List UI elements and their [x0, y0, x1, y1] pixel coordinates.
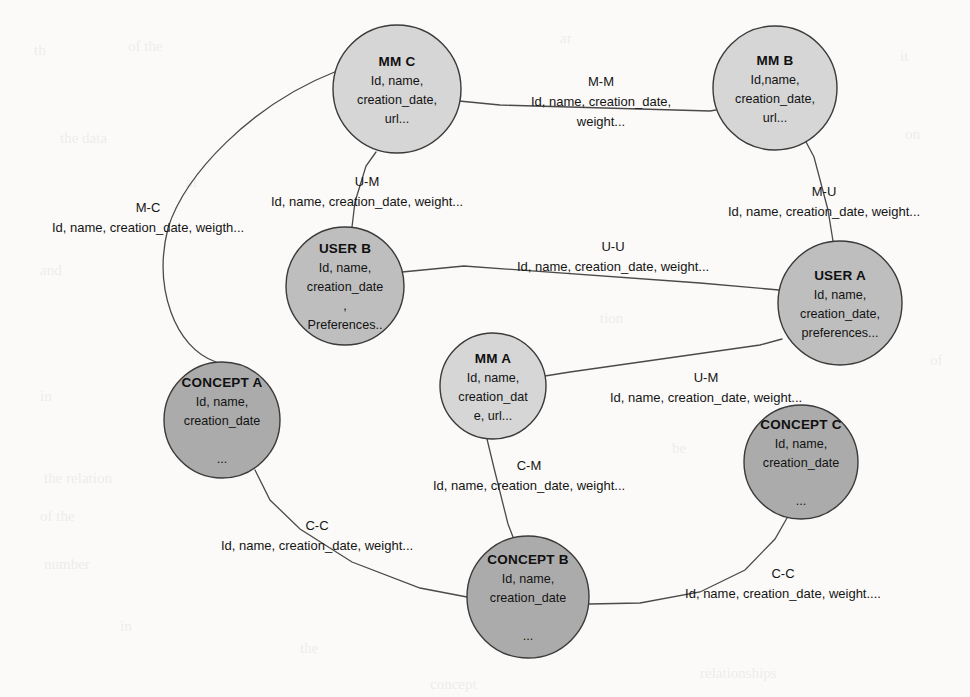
node-attribute-line: creation_date, [800, 307, 880, 321]
node-mm-c[interactable]: MM CId, name,creation_date,url... [333, 25, 461, 153]
node-concept-a[interactable]: CONCEPT AId, name,creation_date... [164, 362, 280, 478]
node-user-a[interactable]: USER AId, name,creation_date,preferences… [778, 241, 902, 365]
entity-relationship-diagram: M-MId, name, creation_date,weight...U-MI… [0, 0, 970, 697]
edge-attributes: Id, name, creation_date, weight... [728, 204, 920, 219]
node-mm-b[interactable]: MM BId,name,creation_date,url... [713, 26, 837, 150]
node-attribute-line: Id, name, [467, 371, 520, 385]
node-title-mm-a: MM A [475, 351, 511, 366]
edge-label-u-u-4: U-UId, name, creation_date, weight... [517, 239, 709, 274]
node-title-mm-b: MM B [757, 53, 794, 68]
edge-relationship-type: C-M [517, 458, 542, 473]
edge-attributes-cont: weight... [576, 114, 625, 129]
node-concept-b[interactable]: CONCEPT BId, name,creation_date... [467, 536, 589, 658]
node-attribute-line: e, url... [474, 409, 513, 423]
node-attribute-line: creation_date [490, 591, 566, 605]
node-attribute-line: Id, name, [196, 395, 249, 409]
node-attribute-line: creation_dat [458, 390, 528, 404]
node-attribute-line: creation_date, [735, 92, 815, 106]
node-title-concept-b: CONCEPT B [487, 552, 568, 567]
edge-attributes: Id, name, creation_date, weight... [610, 390, 802, 405]
node-attribute-line: url... [763, 111, 788, 125]
edge-relationship-type: M-U [812, 184, 837, 199]
node-title-user-a: USER A [814, 268, 866, 283]
node-user-b[interactable]: USER BId, name,creation_date,Preferences… [286, 227, 404, 345]
edge-relationship-type: C-C [305, 518, 328, 533]
edge-label-c-c-7: C-CId, name, creation_date, weight... [221, 518, 413, 553]
edge-relationship-type: U-M [694, 370, 719, 385]
node-attribute-line: creation_date, [357, 93, 437, 107]
node-attribute-line: ... [796, 494, 807, 508]
edge-attributes: Id, name, creation_date, weight... [271, 194, 463, 209]
node-attribute-line: Id, name, [814, 288, 867, 302]
node-circle-mm-b[interactable] [713, 26, 837, 150]
edge-relationship-type: M-M [588, 74, 614, 89]
node-attribute-line: , [343, 299, 347, 313]
node-title-concept-c: CONCEPT C [760, 417, 841, 432]
edge-attributes: Id, name, creation_date, weight.... [685, 586, 881, 601]
node-attribute-line: Id, name, [319, 261, 372, 275]
edge-mm-c-to-user-b [352, 152, 376, 227]
edge-label-u-m-5: U-MId, name, creation_date, weight... [610, 370, 802, 405]
diagram-canvas: thof thearitthe dataonalandtionofinbethe… [0, 0, 970, 697]
node-attribute-line: creation_date [184, 414, 260, 428]
edge-label-m-m-0: M-MId, name, creation_date,weight... [531, 74, 671, 129]
node-attribute-line: preferences... [801, 326, 878, 340]
edge-label-c-c-8: C-CId, name, creation_date, weight.... [685, 566, 881, 601]
edge-label-c-m-6: C-MId, name, creation_date, weight... [433, 458, 625, 493]
node-circle-user-a[interactable] [778, 241, 902, 365]
edge-label-m-c-2: M-CId, name, creation_date, weigth... [52, 200, 244, 235]
edge-mm-a-to-user-a [545, 339, 782, 376]
edge-label-u-m-1: U-MId, name, creation_date, weight... [271, 174, 463, 209]
edge-attributes: Id, name, creation_date, weight... [221, 538, 413, 553]
edge-label-m-u-3: M-UId, name, creation_date, weight... [728, 184, 920, 219]
node-attribute-line: creation_date [307, 280, 383, 294]
node-title-user-b: USER B [319, 241, 371, 256]
node-attribute-line: Preferences.. [308, 318, 383, 332]
edge-attributes: Id, name, creation_date, weigth... [52, 220, 244, 235]
edge-attributes: Id, name, creation_date, weight... [517, 259, 709, 274]
node-attribute-line: ... [523, 629, 534, 643]
node-attribute-line: Id, name, [371, 74, 424, 88]
nodes-layer: MM CId, name,creation_date,url...MM BId,… [164, 25, 902, 658]
edge-relationship-type: U-U [601, 239, 624, 254]
node-attribute-line: Id, name, [502, 572, 555, 586]
node-title-mm-c: MM C [379, 54, 416, 69]
node-circle-mm-c[interactable] [333, 25, 461, 153]
node-mm-a[interactable]: MM AId, name,creation_date, url... [440, 333, 546, 439]
node-title-concept-a: CONCEPT A [182, 375, 263, 390]
node-attribute-line: ... [217, 452, 228, 466]
node-attribute-line: Id,name, [750, 73, 799, 87]
node-concept-c[interactable]: CONCEPT CId, name,creation_date... [744, 405, 858, 519]
edge-attributes: Id, name, creation_date, weight... [433, 478, 625, 493]
edge-relationship-type: M-C [136, 200, 161, 215]
node-attribute-line: Id, name, [775, 437, 828, 451]
edge-relationship-type: C-C [771, 566, 794, 581]
node-attribute-line: url... [385, 112, 410, 126]
node-circle-mm-a[interactable] [440, 333, 546, 439]
edge-relationship-type: U-M [355, 174, 380, 189]
edge-attributes: Id, name, creation_date, [531, 94, 671, 109]
node-attribute-line: creation_date [763, 456, 839, 470]
